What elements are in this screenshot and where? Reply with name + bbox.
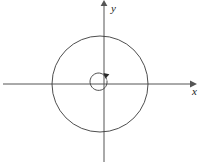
x-axis-label: x [191, 85, 197, 97]
figure-canvas: y x [0, 0, 203, 162]
y-axis-label: y [110, 2, 116, 14]
polar-curve-figure: y x [0, 0, 203, 162]
y-axis-arrow-icon [101, 0, 108, 6]
